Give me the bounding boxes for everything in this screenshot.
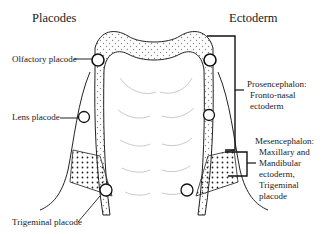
left-outer-lobe xyxy=(40,72,90,210)
label-trigeminal-placode: Trigeminal placode xyxy=(12,217,82,228)
placode-diagram: Placodes Ectoderm xyxy=(0,0,322,234)
label-olfactory-placode: Olfactory placode xyxy=(12,54,77,65)
right-olfactory-placode xyxy=(204,54,216,66)
right-trigeminal-placode xyxy=(181,184,193,196)
right-lens-placode xyxy=(204,110,215,121)
neural-fold-band xyxy=(95,32,213,215)
label-lens-placode: Lens placode xyxy=(12,112,60,123)
fold-arcs xyxy=(118,78,194,195)
label-mesencephalon: Mesencephalon: Maxillary and Mandibular … xyxy=(255,136,314,202)
left-olfactory-placode xyxy=(92,54,104,66)
left-lens-placode xyxy=(79,112,90,123)
label-prosencephalon: Prosencephalon: Fronto-nasal ectoderm xyxy=(247,79,306,112)
left-trigeminal-placode xyxy=(100,184,112,196)
